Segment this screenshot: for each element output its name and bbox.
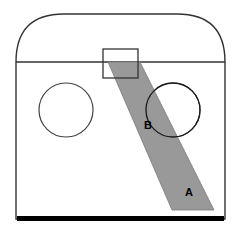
left-circle-port xyxy=(39,83,93,137)
base-bar xyxy=(17,216,224,221)
schematic-diagram: A B xyxy=(0,0,240,239)
band-label-a: A xyxy=(185,186,193,198)
band-label-b: B xyxy=(144,119,152,131)
diagram-canvas: A B xyxy=(0,0,240,239)
